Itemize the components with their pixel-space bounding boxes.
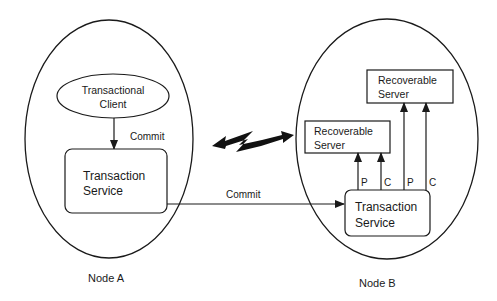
label-p-upper: P — [407, 177, 414, 188]
node-b-label: Node B — [359, 277, 396, 289]
upper-server-line1: Recoverable — [378, 74, 437, 86]
client-label-line2: Client — [100, 98, 127, 110]
label-c-lower: C — [384, 177, 391, 188]
label-c-upper: C — [429, 177, 436, 188]
node-a: Transactional Client Commit Transaction … — [25, 20, 193, 284]
node-b-transaction-service[interactable]: Transaction Service — [345, 190, 430, 236]
transactional-client[interactable]: Transactional Client — [57, 74, 169, 118]
inter-node-commit-label: Commit — [226, 189, 261, 200]
recoverable-server-upper[interactable]: Recoverable Server — [367, 70, 453, 103]
client-commit-label: Commit — [130, 131, 165, 142]
node-a-transaction-service[interactable]: Transaction Service — [65, 149, 167, 213]
client-label-line1: Transactional — [82, 84, 145, 96]
node-a-ts-line1: Transaction — [83, 169, 145, 183]
lower-server-line2: Server — [314, 139, 345, 151]
transaction-diagram: Transactional Client Commit Transaction … — [0, 0, 497, 301]
node-a-boundary — [25, 20, 193, 258]
node-b-ts-line1: Transaction — [355, 200, 417, 214]
node-b: Recoverable Server Recoverable Server P … — [296, 19, 478, 289]
label-p-lower: P — [361, 177, 368, 188]
upper-server-line2: Server — [378, 88, 409, 100]
node-a-label: Node A — [88, 272, 125, 284]
recoverable-server-lower[interactable]: Recoverable Server — [305, 121, 390, 153]
node-b-ts-line2: Service — [355, 216, 395, 230]
lightning-bolt-icon — [212, 131, 294, 152]
node-a-ts-line2: Service — [83, 184, 123, 198]
lower-server-line1: Recoverable — [314, 125, 373, 137]
